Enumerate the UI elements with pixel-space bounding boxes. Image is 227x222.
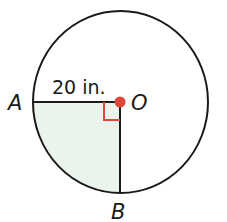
point-label-O: O (131, 91, 148, 115)
point-label-A: A (6, 91, 22, 115)
center-point-O (115, 97, 126, 108)
point-label-B: B (111, 200, 125, 222)
radius-label: 20 in. (52, 76, 106, 98)
circle-diagram: 20 in. A O B (0, 0, 227, 222)
